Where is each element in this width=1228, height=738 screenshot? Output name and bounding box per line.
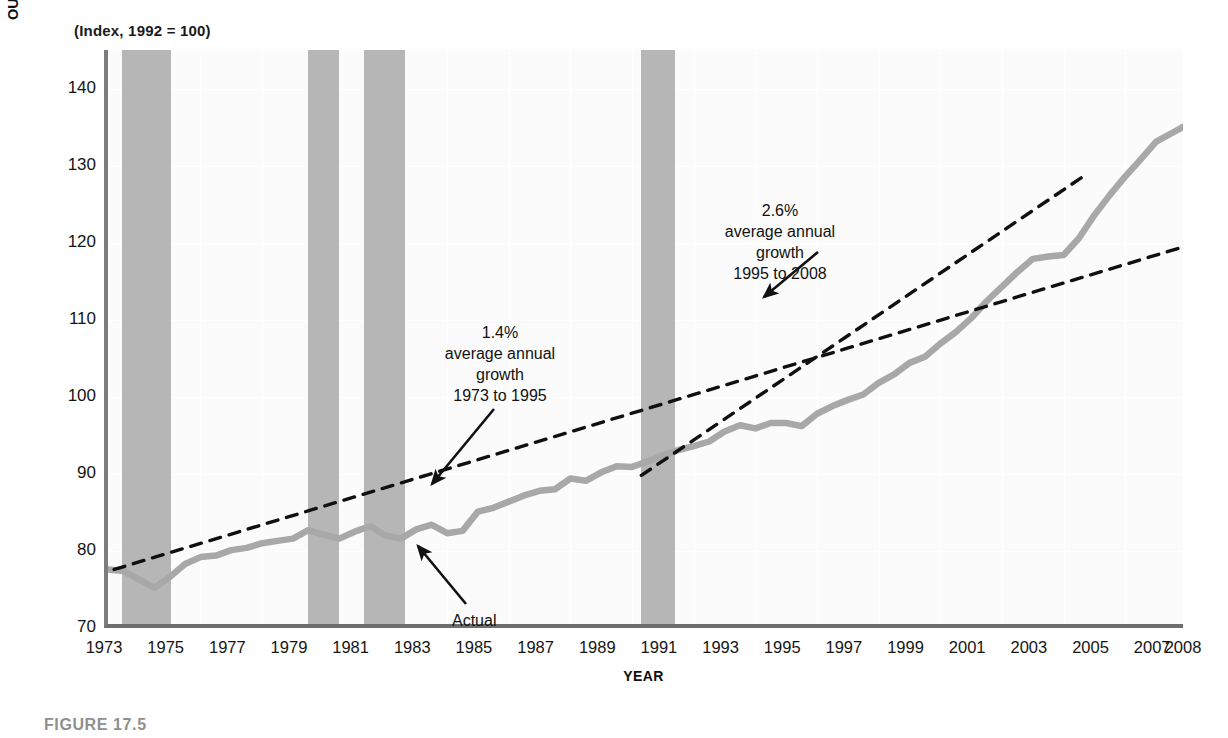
x-axis-title: YEAR <box>104 668 1183 684</box>
y-tick-label: 90 <box>50 463 96 483</box>
annotation-growth2-line2: average annual <box>680 221 880 242</box>
x-tick-label: 2008 <box>1165 638 1202 657</box>
x-tick-label: 1987 <box>517 638 554 657</box>
x-tick-label: 2001 <box>949 638 986 657</box>
annotation-actual-label: Actual <box>452 612 496 630</box>
series-lines <box>108 50 1183 624</box>
y-axis-title: OUTPUT PER HOUR IN THE NONFARM BUSINESS … <box>0 0 26 102</box>
y-axis-tick-labels: 708090100110120130140 <box>40 50 96 628</box>
y-tick-label: 130 <box>50 155 96 175</box>
x-tick-label: 1989 <box>579 638 616 657</box>
x-tick-label: 1981 <box>332 638 369 657</box>
y-tick-label: 100 <box>50 386 96 406</box>
annotation-growth1-line4: 1973 to 1995 <box>400 385 600 406</box>
x-tick-label: 1977 <box>209 638 246 657</box>
figure-page: (Index, 1992 = 100) OUTPUT PER HOUR IN T… <box>0 0 1228 738</box>
annotation-growth2-line3: growth <box>680 242 880 263</box>
y-tick-label: 70 <box>50 617 96 637</box>
figure-caption: FIGURE 17.5 <box>44 716 147 734</box>
annotation-growth2-line1: 2.6% <box>680 200 880 221</box>
y-tick-label: 140 <box>50 78 96 98</box>
annotation-growth1-line1: 1.4% <box>400 322 600 343</box>
x-tick-label: 1973 <box>86 638 123 657</box>
annotation-growth1-line3: growth <box>400 364 600 385</box>
y-tick-label: 110 <box>50 309 96 329</box>
actual-line <box>108 125 1183 588</box>
annotation-growth2-line4: 1995 to 2008 <box>680 263 880 284</box>
y-tick-label: 80 <box>50 540 96 560</box>
x-tick-label: 2005 <box>1072 638 1109 657</box>
annotation-growth-1973-1995: 1.4% average annual growth 1973 to 1995 <box>400 322 600 406</box>
x-tick-label: 1979 <box>271 638 308 657</box>
x-tick-label: 2003 <box>1010 638 1047 657</box>
x-tick-label: 1991 <box>641 638 678 657</box>
y-tick-label: 120 <box>50 232 96 252</box>
x-axis-tick-labels: 1973197519771979198119831985198719891991… <box>104 638 1183 664</box>
x-tick-label: 1985 <box>456 638 493 657</box>
x-tick-label: 1993 <box>702 638 739 657</box>
annotation-growth1-line2: average annual <box>400 343 600 364</box>
plot-area <box>104 50 1183 628</box>
trend-line <box>114 246 1183 570</box>
index-note: (Index, 1992 = 100) <box>74 22 211 39</box>
x-tick-label: 1999 <box>887 638 924 657</box>
x-tick-label: 1995 <box>764 638 801 657</box>
plot-inner <box>108 50 1183 624</box>
x-tick-label: 1975 <box>147 638 184 657</box>
annotation-growth-1995-2008: 2.6% average annual growth 1995 to 2008 <box>680 200 880 284</box>
x-tick-label: 1983 <box>394 638 431 657</box>
x-tick-label: 1997 <box>826 638 863 657</box>
